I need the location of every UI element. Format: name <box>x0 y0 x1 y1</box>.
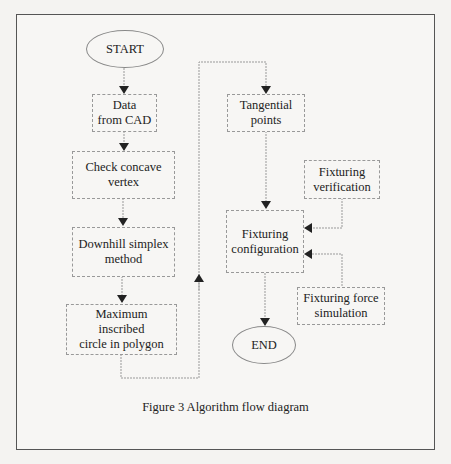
maximum-inscribed-circle-node: Maximum inscribed circle in polygon <box>66 304 177 355</box>
end-node: END <box>232 326 296 364</box>
fixturing-configuration-node: Fixturing configuration <box>226 210 304 273</box>
downhill-simplex-node: Downhill simplex method <box>72 227 175 277</box>
data-from-cad-node: Data from CAD <box>92 94 157 132</box>
end-label: END <box>251 338 277 353</box>
check-concave-vertex-node: Check concave vertex <box>72 151 175 199</box>
figure-caption: Figure 3 Algorithm flow diagram <box>16 400 435 415</box>
tangential-points-node: Tangential points <box>227 94 305 132</box>
start-label: START <box>106 42 144 57</box>
fixturing-verification-node: Fixturing verification <box>304 160 380 199</box>
start-node: START <box>86 30 164 68</box>
fixturing-force-simulation-node: Fixturing force simulation <box>297 287 385 325</box>
